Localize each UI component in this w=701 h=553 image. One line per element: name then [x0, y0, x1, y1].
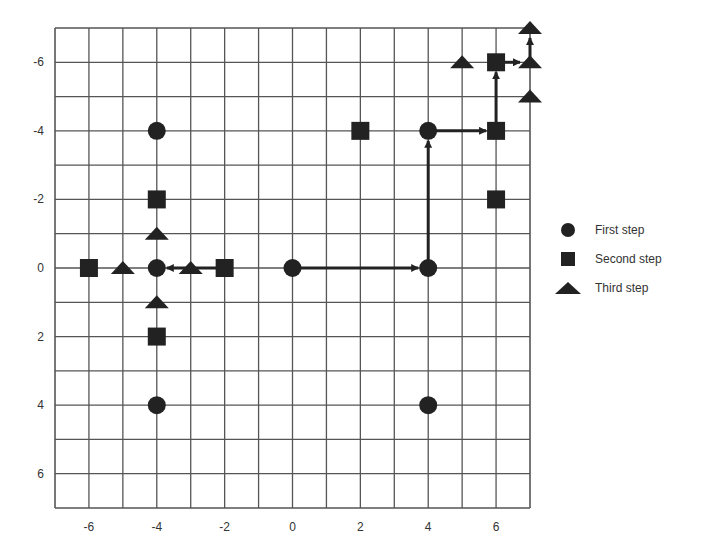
legend-label: Second step [595, 252, 662, 266]
x-tick-label: 0 [289, 520, 296, 534]
legend: First step Second step Third step [555, 215, 662, 302]
x-tick-label: 6 [493, 520, 500, 534]
circle-marker [419, 122, 437, 140]
x-tick-label: -2 [219, 520, 230, 534]
x-tick-label: 4 [425, 520, 432, 534]
square-marker [487, 53, 505, 71]
y-tick-label: 4 [37, 398, 44, 412]
square-icon [555, 251, 581, 267]
triangle-icon [555, 280, 581, 296]
legend-label: First step [595, 223, 644, 237]
square-marker [487, 122, 505, 140]
y-tick-label: -6 [33, 55, 44, 69]
y-tick-label: 2 [37, 330, 44, 344]
y-tick-label: 6 [37, 467, 44, 481]
square-marker [351, 122, 369, 140]
circle-marker [148, 122, 166, 140]
circle-marker [148, 396, 166, 414]
x-tick-label: 2 [357, 520, 364, 534]
x-tick-label: -6 [84, 520, 95, 534]
square-marker [216, 259, 234, 277]
legend-item-second-step: Second step [555, 244, 662, 273]
square-marker [148, 328, 166, 346]
square-marker [148, 190, 166, 208]
legend-label: Third step [595, 281, 648, 295]
legend-item-first-step: First step [555, 215, 662, 244]
square-marker [80, 259, 98, 277]
data-markers [80, 21, 542, 414]
circle-marker [148, 259, 166, 277]
y-tick-label: 0 [37, 261, 44, 275]
circle-marker [284, 259, 302, 277]
circle-marker [419, 259, 437, 277]
x-tick-label: -4 [151, 520, 162, 534]
legend-item-third-step: Third step [555, 273, 662, 302]
circle-marker [419, 396, 437, 414]
y-tick-label: -4 [33, 124, 44, 138]
circle-icon [555, 222, 581, 238]
square-marker [487, 190, 505, 208]
y-tick-label: -2 [33, 192, 44, 206]
